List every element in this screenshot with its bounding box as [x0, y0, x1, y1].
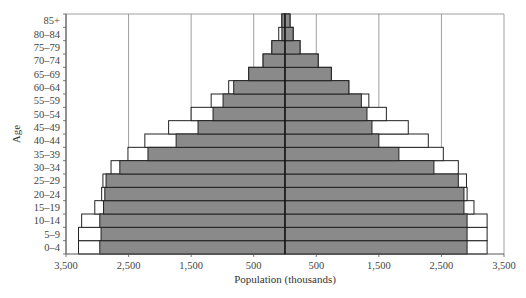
bar-30–34 — [120, 161, 285, 174]
bar-85+ — [285, 14, 290, 27]
x-tick-labels: 3,5002,5001,5005005001,5002,5003,500 — [54, 260, 516, 271]
y-axis-title: Age — [10, 125, 22, 143]
bar-70–74 — [263, 54, 285, 67]
bar-5–9 — [101, 227, 285, 240]
bar-0–4 — [285, 241, 467, 254]
bar-50–54 — [285, 107, 367, 120]
bar-60–64 — [234, 81, 285, 94]
bar-35–39 — [148, 147, 285, 160]
bar-15–19 — [104, 201, 285, 214]
y-tick-label: 15–19 — [34, 202, 60, 213]
bar-35–39 — [285, 147, 399, 160]
bar-45–49 — [285, 121, 372, 134]
x-tick-label: 500 — [308, 260, 324, 271]
y-tick-label: 30–34 — [34, 162, 61, 173]
bar-65–69 — [285, 67, 331, 80]
bar-20–24 — [285, 187, 464, 200]
y-tick-label: 20–24 — [34, 189, 61, 200]
bar-10–14 — [285, 214, 467, 227]
bar-10–14 — [100, 214, 285, 227]
bar-80–84 — [285, 27, 293, 40]
bar-30–34 — [285, 161, 434, 174]
x-tick-label: 3,500 — [492, 260, 516, 271]
bar-75–79 — [285, 41, 300, 54]
y-tick-label: 35–39 — [34, 149, 60, 160]
y-tick-label: 60–64 — [34, 82, 61, 93]
x-tick-label: 1,500 — [367, 260, 391, 271]
bar-45–49 — [198, 121, 285, 134]
y-tick-label: 10–14 — [34, 215, 61, 226]
bar-40–44 — [176, 134, 285, 147]
bar-60–64 — [285, 81, 349, 94]
y-tick-label: 25–29 — [34, 175, 60, 186]
y-tick-label: 80–84 — [34, 29, 61, 40]
x-tick-label: 1,500 — [179, 260, 203, 271]
y-tick-labels: 0–45–910–1415–1920–2425–2930–3435–3940–4… — [34, 15, 61, 253]
y-tick-label: 0–4 — [44, 242, 61, 253]
y-tick-label: 40–44 — [34, 135, 61, 146]
x-tick-label: 2,500 — [430, 260, 454, 271]
y-tick-label: 50–54 — [34, 109, 61, 120]
bar-65–69 — [249, 67, 285, 80]
bar-5–9 — [285, 227, 467, 240]
bar-40–44 — [285, 134, 379, 147]
x-tick-label: 500 — [246, 260, 262, 271]
bar-25–29 — [106, 174, 285, 187]
bar-55–59 — [223, 94, 285, 107]
x-tick-label: 3,500 — [54, 260, 78, 271]
x-axis-title: Population (thousands) — [234, 273, 336, 286]
y-tick-label: 70–74 — [34, 55, 61, 66]
bar-70–74 — [285, 54, 318, 67]
bar-15–19 — [285, 201, 464, 214]
y-tick-label: 5–9 — [44, 229, 60, 240]
y-tick-label: 45–49 — [34, 122, 60, 133]
bar-0–4 — [100, 241, 285, 254]
bar-25–29 — [285, 174, 458, 187]
y-tick-label: 85+ — [44, 15, 61, 26]
y-tick-label: 55–59 — [34, 95, 60, 106]
bar-20–24 — [105, 187, 285, 200]
y-tick-label: 65–69 — [34, 69, 60, 80]
x-tick-label: 2,500 — [117, 260, 141, 271]
bar-50–54 — [213, 107, 285, 120]
bar-55–59 — [285, 94, 361, 107]
population-pyramid-chart: 0–45–910–1415–1920–2425–2930–3435–3940–4… — [0, 0, 526, 298]
bar-75–79 — [272, 41, 285, 54]
y-tick-label: 75–79 — [34, 42, 60, 53]
